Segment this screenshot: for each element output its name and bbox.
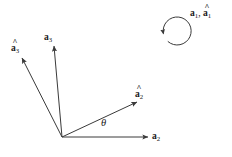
label-a2-symbol: a2 [152,132,160,143]
label-theta-angle: θ [101,118,106,129]
diagram-canvas [0,0,232,157]
label-a2-hat-subscript: 2 [140,93,143,100]
label-a3: a3 [44,33,52,44]
label-a2-hat-symbol: ^a2 [135,90,143,101]
label-a1-pair: a1 , ^a1 [190,9,211,20]
rotation-arc [163,17,191,45]
vector-a2-hat-arrow [62,102,137,137]
label-a3-symbol: a3 [44,33,52,44]
label-a3-hat-subscript: 3 [16,47,19,54]
label-a1-subscript: 1 [195,12,198,19]
hat-accent-a1: ^ [203,3,211,12]
label-a1-hat-subscript: 1 [208,12,211,19]
label-a3-subscript: 3 [49,36,52,43]
label-a3-hat-symbol: ^a3 [11,44,19,55]
label-a1-hat-symbol: ^a1 [203,9,211,20]
label-a3-hat: ^a3 [11,44,19,55]
hat-accent-a2: ^ [135,84,143,93]
label-a2: a2 [152,132,160,143]
hat-accent-a3: ^ [11,38,19,47]
vector-rotation-diagram: a3 ^a3 a2 ^a2 θ a1 , ^a1 [0,0,232,157]
label-a1-symbol: a1 [190,9,198,20]
label-a2-hat: ^a2 [135,90,143,101]
label-a2-subscript: 2 [157,135,160,142]
